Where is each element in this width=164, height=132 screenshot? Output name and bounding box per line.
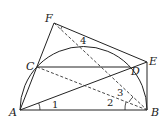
angle-label-4: 4 — [80, 35, 86, 46]
segment-FE — [54, 23, 147, 62]
angle-label-1: 1 — [52, 99, 58, 110]
angle-label-3: 3 — [117, 87, 123, 98]
label-C: C — [26, 60, 35, 73]
label-A: A — [8, 106, 17, 119]
semicircle-arc — [20, 47, 147, 111]
label-B: B — [150, 106, 159, 119]
label-F: F — [44, 12, 53, 25]
label-E: E — [148, 55, 157, 68]
angle-arc-1 — [39, 103, 40, 110]
angle-arc-4 — [61, 26, 62, 29]
geometry-figure: A B C D E F 1 2 3 4 — [0, 0, 164, 132]
angle-label-2: 2 — [107, 97, 113, 108]
label-D: D — [130, 65, 140, 78]
angle-arc-3 — [129, 97, 133, 102]
angle-arc-2 — [125, 102, 126, 110]
